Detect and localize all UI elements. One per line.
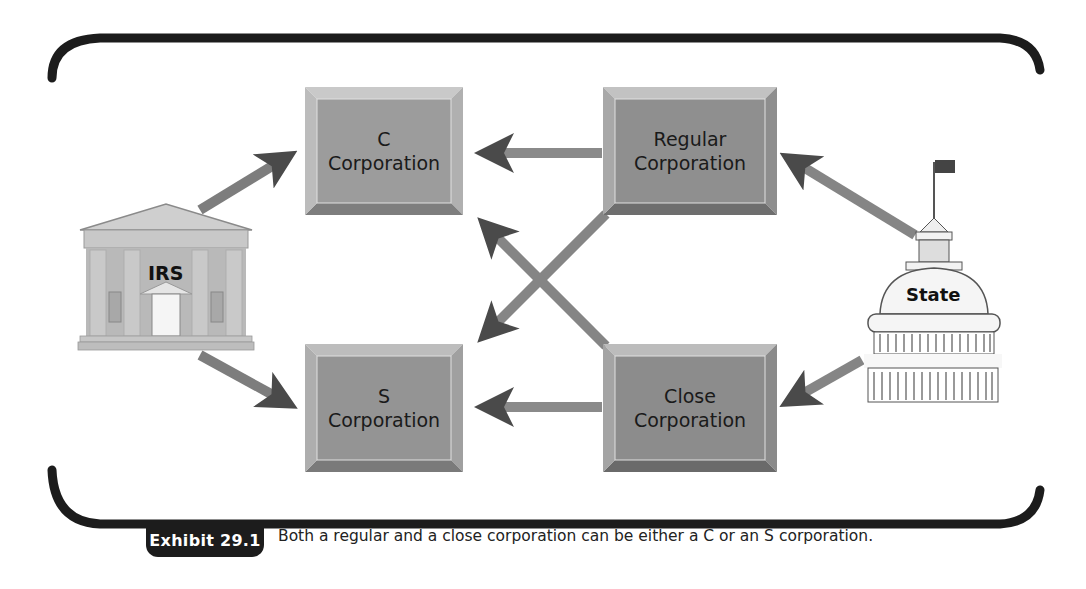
s-corp-line2: Corporation (328, 408, 440, 432)
s-corporation-box: SCorporation (305, 344, 463, 472)
close-corp-line2: Corporation (634, 408, 746, 432)
arrow-close-to-c (490, 230, 606, 346)
close-corp-line1: Close (664, 384, 716, 408)
exhibit-label: Exhibit 29.1 (146, 524, 264, 557)
arrow-state-to-close (795, 360, 862, 398)
regular-corporation-box: RegularCorporation (603, 87, 777, 215)
figure-caption: Both a regular and a close corporation c… (278, 527, 873, 545)
arrow-state-to-regular (795, 162, 915, 235)
c-corp-line1: C (377, 127, 390, 151)
exhibit-figure: IRS State CCorporation RegularCorporatio… (0, 0, 1086, 589)
regular-corp-line1: Regular (654, 127, 727, 151)
c-corporation-box: CCorporation (305, 87, 463, 215)
arrow-regular-to-s (490, 214, 606, 330)
irs-label: IRS (148, 262, 183, 284)
state-capitol-icon (864, 160, 1002, 402)
close-corporation-box: CloseCorporation (603, 344, 777, 472)
frame-top (52, 38, 1040, 78)
arrow-irs-to-c (200, 160, 282, 210)
c-corp-line2: Corporation (328, 151, 440, 175)
arrow-irs-to-s (200, 355, 282, 400)
s-corp-line1: S (378, 384, 390, 408)
state-label: State (906, 284, 961, 305)
regular-corp-line2: Corporation (634, 151, 746, 175)
frame-bottom (52, 470, 1040, 524)
